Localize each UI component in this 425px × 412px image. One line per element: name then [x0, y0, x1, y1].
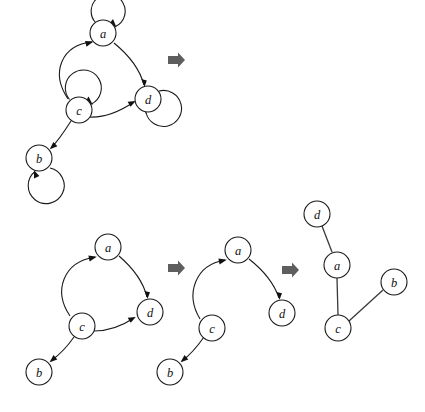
node-a-graph-4[interactable]: a: [324, 252, 350, 278]
node-a-graph-3[interactable]: a: [225, 237, 251, 263]
self-loop-b-graph-1: [28, 168, 64, 204]
step-arrow-3: [282, 263, 299, 278]
node-d-graph-2[interactable]: d: [137, 299, 163, 325]
edge-c-to-d-graph-1: [89, 101, 136, 117]
node-b-graph-2[interactable]: b: [26, 359, 52, 385]
edge-a-to-d-graph-2: [119, 256, 150, 299]
node-d-graph-1[interactable]: d: [135, 86, 161, 112]
edge-a-c-graph-4: [337, 278, 338, 315]
node-a-graph-1[interactable]: a: [90, 20, 116, 46]
edge-a-to-d-graph-1: [114, 43, 147, 87]
step-arrow-1: [168, 53, 185, 68]
node-b-graph-4[interactable]: b: [381, 269, 407, 295]
figure-canvas: a c d b: [0, 0, 425, 412]
edge-c-to-b-graph-3: [181, 337, 204, 362]
graph-figure-svg: a c d b: [0, 0, 425, 412]
graph-4: d a c b: [304, 201, 407, 341]
edge-a-to-d-graph-3: [249, 259, 282, 300]
node-a-graph-2[interactable]: a: [95, 234, 121, 260]
edge-d-a-graph-4: [322, 226, 332, 252]
edge-c-to-a-graph-1: [60, 41, 94, 99]
edge-c-to-d-graph-2: [94, 317, 136, 331]
edge-c-to-a-graph-2: [62, 256, 97, 316]
edge-c-to-b-graph-2: [50, 337, 74, 362]
graph-2: a c d b: [26, 234, 163, 385]
graph-1: a c d b: [26, 0, 182, 204]
node-b-graph-3[interactable]: b: [157, 359, 183, 385]
node-b-graph-1[interactable]: b: [26, 145, 52, 171]
node-d-graph-3[interactable]: d: [269, 300, 295, 326]
node-c-graph-3[interactable]: c: [199, 315, 225, 341]
edge-c-b-graph-4: [349, 290, 383, 321]
edge-c-to-a-graph-3: [193, 259, 227, 319]
graph-3: a c d b: [157, 237, 295, 385]
node-c-graph-4[interactable]: c: [325, 315, 351, 341]
node-d-graph-4[interactable]: d: [304, 201, 330, 227]
node-c-graph-1[interactable]: c: [66, 97, 92, 123]
node-c-graph-2[interactable]: c: [69, 313, 95, 339]
edge-c-to-b-graph-1: [50, 121, 71, 149]
step-arrow-2: [168, 261, 185, 276]
